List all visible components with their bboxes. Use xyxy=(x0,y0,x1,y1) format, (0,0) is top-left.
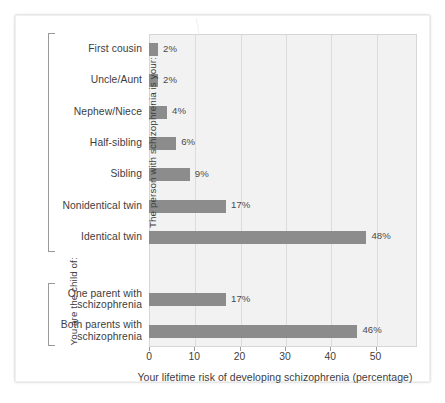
bar-value-label: 48% xyxy=(371,230,391,241)
bar-value-label: 46% xyxy=(362,324,382,335)
group-bracket-label: The person with schizophrenia is your: xyxy=(43,33,262,252)
x-tick-label: 30 xyxy=(270,351,300,362)
bar xyxy=(149,325,357,338)
x-axis: 01020304050 xyxy=(0,347,445,367)
bar xyxy=(149,293,226,306)
x-tick-label: 40 xyxy=(315,351,345,362)
x-tick-label: 50 xyxy=(361,351,391,362)
x-axis-title: Your lifetime risk of developing schizop… xyxy=(120,371,430,383)
x-tick-label: 20 xyxy=(225,351,255,362)
x-tick-label: 0 xyxy=(134,351,164,362)
x-tick-label: 10 xyxy=(179,351,209,362)
bar-chart: First cousin2%Uncle/Aunt2%Nephew/Niece4%… xyxy=(0,0,445,403)
bar-value-label: 17% xyxy=(231,293,251,304)
group-bracket-label: You are the child of: xyxy=(43,283,106,346)
